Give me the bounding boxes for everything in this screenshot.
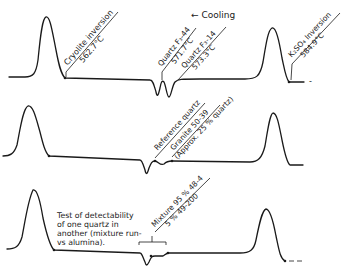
trace-1-curve (9, 17, 304, 97)
cooling-direction-label: ← Cooling (191, 10, 235, 20)
trace-2-curve (3, 106, 303, 174)
mixture-label: Mixture 95 % 48-4 (150, 174, 205, 229)
detectability-note: Test of detectability of one quartz in a… (56, 211, 142, 247)
annotation-k2so4-inversion: K₂SO₄ Inversion 584.9°C (286, 10, 340, 80)
note-line-1: Test of detectability (56, 211, 134, 220)
trace-1: - Cryolite inversion 562.7°C Quartz F₃-4… (9, 8, 340, 97)
annotation-cryolite-inversion: Cryolite inversion 562.7°C (62, 8, 122, 77)
trace-2: Reference quartz Granite 50-39 (Approx. … (3, 88, 303, 173)
note-line-3: another (mixture run- (57, 229, 142, 238)
note-line-4: vs alumina). (57, 238, 105, 247)
dta-cooling-curves-diagram: ← Cooling - Cryolite inversion 562.7°C Q… (0, 0, 347, 273)
trace-3: Mixture 95 % 48-4 5 % 49-200 Test of det… (7, 174, 302, 265)
mixture-bracket (139, 236, 166, 245)
annotation-mixture: Mixture 95 % 48-4 5 % 49-200 (150, 174, 212, 236)
note-line-2: of one quartz in (57, 220, 119, 229)
trace-3-curve (7, 190, 285, 265)
svg-text:-: - (309, 77, 312, 86)
